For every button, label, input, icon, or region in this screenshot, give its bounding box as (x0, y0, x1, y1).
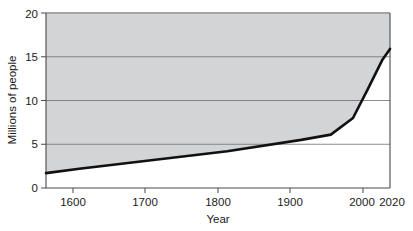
y-tick-label-15: 15 (25, 51, 38, 63)
x-axis-title: Year (206, 213, 229, 225)
y-tick-label-20: 20 (25, 8, 38, 20)
x-tick-label-2020: 2020 (379, 196, 405, 208)
x-tick-label-1700: 1700 (132, 196, 158, 208)
x-tick-label-2000: 2000 (349, 196, 375, 208)
y-tick-label-0: 0 (32, 182, 38, 194)
y-tick-label-10: 10 (25, 95, 38, 107)
y-axis-title: Millions of people (6, 56, 18, 145)
x-tick-label-1900: 1900 (277, 196, 303, 208)
y-tick-label-5: 5 (32, 138, 38, 150)
chart-canvas: 0 5 10 15 20 1600 1700 1800 1900 2000 20… (0, 0, 413, 231)
x-tick-label-1800: 1800 (205, 196, 231, 208)
x-tick-label-1600: 1600 (60, 196, 86, 208)
population-area-chart: 0 5 10 15 20 1600 1700 1800 1900 2000 20… (0, 0, 413, 231)
